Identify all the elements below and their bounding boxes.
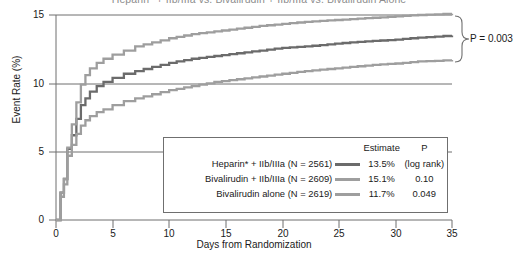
legend-header-blank bbox=[164, 140, 332, 156]
y-tick-0: 0 bbox=[18, 214, 44, 225]
legend-label: Bivalirudin + IIb/IIIa (N = 2609) bbox=[164, 171, 332, 186]
y-tick-10: 10 bbox=[18, 78, 44, 89]
legend-pvalue: 0.049 bbox=[402, 186, 447, 201]
plot-area bbox=[0, 0, 518, 258]
y-tick-5: 5 bbox=[18, 146, 44, 157]
legend-header-row: Estimate P bbox=[164, 140, 447, 156]
figure: Heparin* + IIb/IIIa vs. Bivalirudin + II… bbox=[0, 0, 518, 258]
legend-header-estimate: Estimate bbox=[362, 140, 402, 156]
x-tick-35: 35 bbox=[437, 228, 467, 239]
legend-row: Bivalirudin alone (N = 2619) 11.7% 0.049 bbox=[164, 186, 447, 201]
x-tick-10: 10 bbox=[154, 228, 184, 239]
x-tick-30: 30 bbox=[381, 228, 411, 239]
legend-row: Heparin* + IIb/IIIa (N = 2561) 13.5% (lo… bbox=[164, 156, 447, 171]
p-value-annotation: P = 0.003 bbox=[470, 33, 513, 44]
x-tick-0: 0 bbox=[41, 228, 71, 239]
legend-swatch-icon bbox=[332, 171, 362, 186]
legend-swatch-icon bbox=[332, 156, 362, 171]
legend-label: Bivalirudin alone (N = 2619) bbox=[164, 186, 332, 201]
legend-swatch-icon bbox=[332, 186, 362, 201]
x-tick-20: 20 bbox=[268, 228, 298, 239]
y-axis-label: Event Rate (%) bbox=[11, 30, 22, 150]
x-tick-5: 5 bbox=[98, 228, 128, 239]
legend-row: Bivalirudin + IIb/IIIa (N = 2609) 15.1% … bbox=[164, 171, 447, 186]
legend-header-p: P bbox=[402, 140, 447, 156]
x-axis-label: Days from Randomization bbox=[56, 239, 452, 250]
x-tick-15: 15 bbox=[211, 228, 241, 239]
legend-pvalue: (log rank) bbox=[402, 156, 447, 171]
legend-label: Heparin* + IIb/IIIa (N = 2561) bbox=[164, 156, 332, 171]
legend-table: Estimate P Heparin* + IIb/IIIa (N = 2561… bbox=[164, 140, 447, 201]
p-value-brace bbox=[455, 16, 469, 62]
x-tick-25: 25 bbox=[324, 228, 354, 239]
legend-estimate: 15.1% bbox=[362, 171, 402, 186]
legend-pvalue: 0.10 bbox=[402, 171, 447, 186]
legend-estimate: 11.7% bbox=[362, 186, 402, 201]
legend-box: Estimate P Heparin* + IIb/IIIa (N = 2561… bbox=[163, 137, 448, 213]
y-tick-15: 15 bbox=[18, 9, 44, 20]
legend-header-swatch bbox=[332, 140, 362, 156]
legend-estimate: 13.5% bbox=[362, 156, 402, 171]
